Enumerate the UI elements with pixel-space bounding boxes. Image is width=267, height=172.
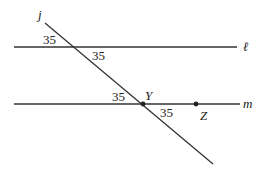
angle-label-l-upper-left: 35 [43, 32, 56, 47]
point-z [194, 102, 199, 107]
label-point-z: Z [200, 108, 208, 123]
angle-label-m-upper-left: 35 [112, 89, 125, 104]
parallel-lines-diagram: j ℓ m Y Z 35 35 35 35 [0, 0, 267, 172]
label-l: ℓ [243, 39, 249, 54]
angle-label-m-lower-right: 35 [160, 105, 173, 120]
angle-label-l-lower-right: 35 [92, 48, 105, 63]
label-j: j [36, 7, 42, 22]
label-point-y: Y [145, 88, 154, 103]
label-m: m [243, 96, 252, 111]
transversal-j [45, 23, 213, 164]
